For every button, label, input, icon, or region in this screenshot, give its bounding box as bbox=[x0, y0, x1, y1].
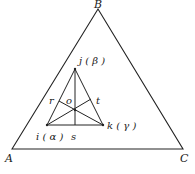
point-i bbox=[46, 124, 48, 126]
label-r: r bbox=[49, 95, 55, 106]
point-k bbox=[102, 124, 104, 126]
diagram-svg: B A C j ( β ) r o t i ( α ) s k ( γ ) bbox=[0, 0, 195, 174]
label-c: C bbox=[180, 152, 189, 165]
label-a: A bbox=[4, 152, 13, 165]
label-j-beta: j ( β ) bbox=[77, 55, 105, 66]
label-o: o bbox=[66, 95, 72, 106]
label-b: B bbox=[93, 0, 102, 11]
outer-triangle-abc bbox=[12, 9, 183, 149]
ternary-diagram: B A C j ( β ) r o t i ( α ) s k ( γ ) bbox=[0, 0, 195, 174]
label-i-alpha: i ( α ) bbox=[36, 131, 63, 142]
label-s: s bbox=[71, 131, 76, 142]
label-t: t bbox=[96, 95, 101, 106]
point-o bbox=[74, 109, 76, 111]
label-k-gamma: k ( γ ) bbox=[107, 120, 136, 131]
point-j bbox=[74, 68, 76, 70]
